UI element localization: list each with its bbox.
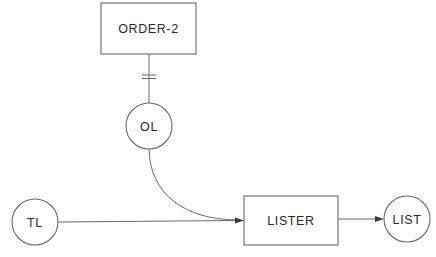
node-list[interactable]: LIST	[384, 196, 430, 242]
node-lister[interactable]: LISTER	[244, 196, 338, 245]
node-ol[interactable]: OL	[126, 103, 172, 149]
connector-line	[58, 221, 236, 223]
edge-lister-to-list	[338, 216, 384, 222]
node-order-2[interactable]: ORDER-2	[101, 3, 196, 54]
data-flow-diagram: ORDER-2 OL TL LISTER LIST	[0, 0, 436, 257]
arrowhead-icon	[375, 216, 384, 222]
node-label: LIST	[393, 213, 422, 227]
node-label: LISTER	[267, 214, 314, 228]
node-tl[interactable]: TL	[12, 199, 58, 245]
edge-order2-to-ol	[142, 54, 156, 103]
node-label: ORDER-2	[118, 22, 178, 36]
node-label: TL	[27, 216, 43, 230]
node-label: OL	[140, 120, 158, 134]
arrowhead-icon	[235, 218, 244, 224]
edge-ol-to-lister	[149, 149, 236, 220]
curved-connector	[149, 149, 236, 220]
